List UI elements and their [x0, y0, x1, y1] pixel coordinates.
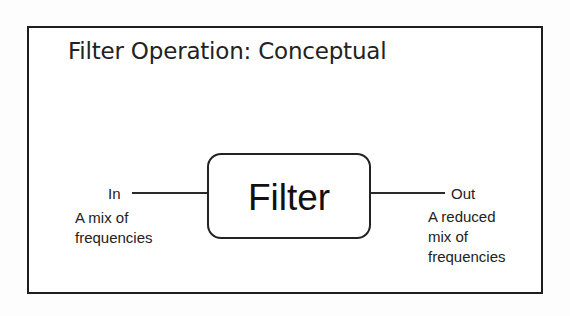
output-description-line: mix of — [428, 227, 506, 247]
output-description-line: A reduced — [428, 207, 506, 227]
output-connector-line — [370, 192, 445, 194]
input-description-line: frequencies — [75, 228, 153, 248]
slide-title: Filter Operation: Conceptual — [68, 38, 386, 64]
output-label: Out — [451, 186, 475, 201]
input-description: A mix of frequencies — [75, 208, 153, 248]
input-description-line: A mix of — [75, 208, 153, 228]
filter-block: Filter — [207, 153, 371, 239]
output-description: A reduced mix of frequencies — [428, 207, 506, 267]
input-label: In — [108, 186, 121, 201]
filter-block-label: Filter — [248, 179, 330, 216]
input-connector-line — [132, 192, 208, 194]
output-description-line: frequencies — [428, 247, 506, 267]
